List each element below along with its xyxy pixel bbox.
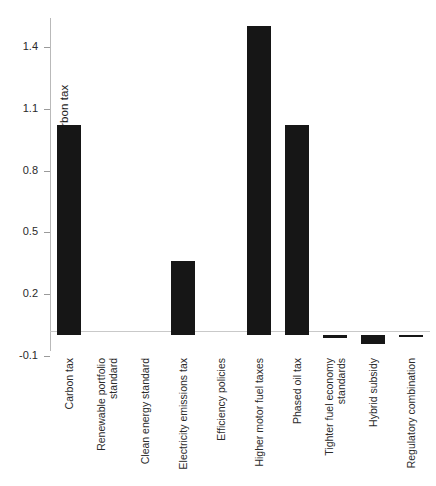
bar <box>285 125 309 335</box>
x-axis-labels: Carbon taxRenewable portfolio standardCl… <box>50 358 430 486</box>
y-axis-tick-label: -0.1 <box>0 349 38 361</box>
x-axis-label: Regulatory combination <box>405 358 417 468</box>
x-axis-label-slot: Electricity emissions tax <box>164 358 202 486</box>
y-axis-tick <box>44 356 50 357</box>
y-axis-tick-label: 0.5 <box>0 225 38 237</box>
y-axis-tick <box>44 171 50 172</box>
x-axis-label: Renewable portfolio standard <box>95 358 119 451</box>
bar-chart: PDV of revenue relative to carbon tax 1.… <box>0 0 436 486</box>
zero-baseline <box>50 331 430 332</box>
x-axis-label: Electricity emissions tax <box>177 358 189 469</box>
plot-area: 1.41.10.80.50.2-0.1 <box>50 16 430 356</box>
x-axis-label-slot: Renewable portfolio standard <box>88 358 126 486</box>
y-axis-tick <box>44 109 50 110</box>
x-axis-label: Tighter fuel economy standards <box>323 358 347 456</box>
x-axis-label-slot: Higher motor fuel taxes <box>240 358 278 486</box>
x-axis-label-slot: Hybrid subsidy <box>354 358 392 486</box>
bar <box>247 26 271 335</box>
x-axis-label: Clean energy standard <box>139 358 151 464</box>
x-axis-label: Higher motor fuel taxes <box>253 358 265 467</box>
y-axis-tick <box>44 294 50 295</box>
y-axis-tick-label: 1.4 <box>0 40 38 52</box>
x-axis-label-slot: Clean energy standard <box>126 358 164 486</box>
x-axis-label: Hybrid subsidy <box>367 358 379 427</box>
y-axis-tick-label: 1.1 <box>0 102 38 114</box>
bar <box>399 335 423 337</box>
bar <box>57 125 81 335</box>
x-axis-label: Efficiency policies <box>215 358 227 441</box>
bar <box>361 335 385 343</box>
y-axis-tick-label: 0.8 <box>0 164 38 176</box>
y-axis-tick-label: 0.2 <box>0 287 38 299</box>
y-axis-line <box>50 18 51 351</box>
x-axis-label-slot: Regulatory combination <box>392 358 430 486</box>
y-axis-tick <box>44 232 50 233</box>
x-axis-label: Phased oil tax <box>291 358 303 424</box>
x-axis-label-slot: Carbon tax <box>50 358 88 486</box>
bar <box>323 335 347 338</box>
bar <box>171 261 195 335</box>
x-axis-label: Carbon tax <box>63 358 75 409</box>
y-axis-tick <box>44 47 50 48</box>
x-axis-label-slot: Efficiency policies <box>202 358 240 486</box>
x-axis-label-slot: Tighter fuel economy standards <box>316 358 354 486</box>
x-axis-label-slot: Phased oil tax <box>278 358 316 486</box>
